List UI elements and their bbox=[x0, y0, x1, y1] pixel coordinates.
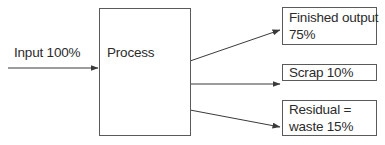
residual-waste-label-line1: Residual = bbox=[289, 101, 351, 118]
finished-output-label-line2: 75% bbox=[289, 26, 315, 43]
scrap-label: Scrap 10% bbox=[289, 64, 353, 81]
residual-waste-label-line2: waste 15% bbox=[289, 118, 353, 135]
finished-output-arrow bbox=[190, 30, 280, 61]
input-label: Input 100% bbox=[14, 44, 80, 61]
scrap-box: Scrap 10% bbox=[282, 64, 377, 81]
finished-output-label-line1: Finished output bbox=[289, 9, 378, 26]
process-label: Process bbox=[107, 44, 154, 61]
process-box: Process bbox=[99, 8, 191, 136]
residual-waste-box: Residual = waste 15% bbox=[282, 100, 377, 136]
finished-output-box: Finished output 75% bbox=[282, 7, 377, 45]
residual-waste-arrow bbox=[190, 110, 280, 127]
